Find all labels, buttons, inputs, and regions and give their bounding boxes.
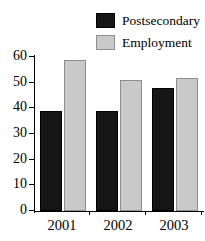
bar-employment-2002 — [120, 80, 142, 211]
bar-employment-2001 — [64, 60, 86, 211]
bar-postsecondary-2002 — [96, 111, 118, 211]
legend-swatch-icon — [96, 35, 115, 50]
y-tick-label: 0 — [20, 202, 27, 218]
y-tick-label: 50 — [13, 74, 27, 90]
bar-postsecondary-2003 — [152, 88, 174, 211]
y-tick-mark — [29, 133, 34, 134]
y-tick-label: 10 — [13, 176, 27, 192]
y-tick-label: 60 — [13, 48, 27, 64]
bar-chart: Postsecondary Employment 0102030405060 2… — [0, 0, 205, 241]
x-tick-mark — [89, 211, 90, 215]
chart-legend: Postsecondary Employment — [96, 9, 204, 53]
legend-item-employment: Employment — [96, 31, 204, 53]
y-tick-mark — [29, 159, 34, 160]
y-tick-mark — [29, 107, 34, 108]
legend-label: Postsecondary — [122, 13, 200, 28]
x-axis-label-2003: 2003 — [146, 216, 202, 234]
legend-label: Employment — [122, 35, 192, 50]
y-tick-label: 40 — [13, 99, 27, 115]
bar-postsecondary-2001 — [40, 111, 62, 211]
y-tick-mark — [29, 56, 34, 57]
y-tick-label: 30 — [13, 125, 27, 141]
y-tick-mark — [29, 210, 34, 211]
x-axis-label-2001: 2001 — [34, 216, 90, 234]
y-tick-mark — [29, 184, 34, 185]
x-axis-label-2002: 2002 — [90, 216, 146, 234]
legend-item-postsecondary: Postsecondary — [96, 9, 204, 31]
plot-area: 0102030405060 — [34, 57, 202, 211]
y-tick-label: 20 — [13, 151, 27, 167]
x-axis-line — [34, 211, 204, 212]
legend-swatch-icon — [96, 13, 115, 28]
y-tick-mark — [29, 82, 34, 83]
bar-employment-2003 — [176, 78, 198, 211]
x-tick-mark — [201, 211, 202, 215]
x-tick-mark — [145, 211, 146, 215]
